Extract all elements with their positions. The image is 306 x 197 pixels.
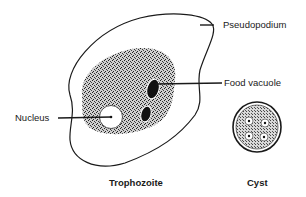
cyst-drawing (233, 102, 281, 152)
food-vacuole-leader (156, 83, 222, 84)
label-pseudopodium: Pseudopodium (223, 19, 286, 30)
nucleus-leader (58, 117, 111, 118)
label-nucleus: Nucleus (15, 112, 49, 123)
caption-trophozoite: Trophozoite (109, 177, 163, 188)
label-food-vacuole: Food vacuole (224, 77, 281, 88)
caption-cyst: Cyst (247, 177, 268, 188)
